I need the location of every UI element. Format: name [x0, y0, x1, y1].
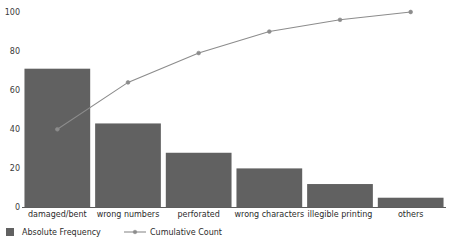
y-tick-label: 0: [15, 203, 20, 212]
chart-legend: Absolute Frequency Cumulative Count: [6, 228, 222, 237]
y-tick-label: 40: [10, 125, 20, 134]
chart-canvas: 100 80 60 40 20 0 damaged/bentwrong numb…: [0, 0, 450, 241]
cumulative-point: [338, 18, 342, 22]
x-axis-tick-labels: damaged/bentwrong numbersperforatedwrong…: [28, 210, 423, 219]
x-tick-label: wrong numbers: [97, 210, 160, 219]
cumulative-point: [267, 30, 271, 34]
bar-wrong-numbers: [95, 123, 161, 207]
legend-swatch-icon: [6, 228, 14, 236]
cumulative-markers: [55, 10, 412, 131]
bar-others: [378, 198, 444, 208]
pareto-chart: 100 80 60 40 20 0 damaged/bentwrong numb…: [0, 0, 450, 241]
cumulative-point: [197, 51, 201, 55]
y-tick-label: 20: [10, 164, 20, 173]
legend-label-absolute-frequency: Absolute Frequency: [22, 228, 101, 237]
bars-group: [24, 69, 443, 208]
cumulative-point: [126, 80, 130, 84]
cumulative-line-group: [55, 10, 412, 131]
cumulative-line: [57, 12, 410, 129]
bar-perforated: [166, 153, 232, 208]
y-tick-label: 80: [10, 47, 20, 56]
cumulative-point: [409, 10, 413, 14]
legend-label-cumulative-count: Cumulative Count: [150, 228, 222, 237]
x-tick-label: wrong characters: [234, 210, 304, 219]
bar-damaged-bent: [24, 69, 90, 208]
y-tick-label: 60: [10, 86, 20, 95]
x-tick-label: others: [398, 210, 423, 219]
y-axis-tick-labels: 100 80 60 40 20 0: [5, 8, 20, 212]
cumulative-point: [55, 127, 59, 131]
bar-wrong-characters: [236, 168, 302, 207]
y-tick-label: 100: [5, 8, 20, 17]
bar-illegible-printing: [307, 184, 373, 207]
x-tick-label: damaged/bent: [28, 210, 87, 219]
x-tick-label: illegible printing: [308, 210, 373, 219]
x-tick-label: perforated: [178, 210, 220, 219]
legend-point-icon: [133, 230, 137, 234]
